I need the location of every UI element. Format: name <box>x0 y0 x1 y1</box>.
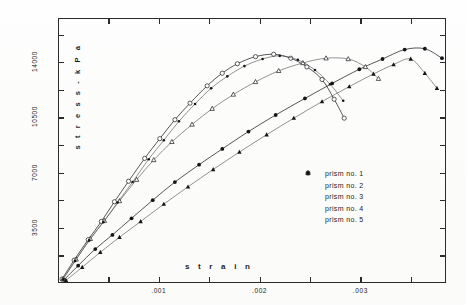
data-point-marker <box>423 47 427 51</box>
data-point-marker <box>381 57 385 61</box>
data-point-marker <box>264 132 268 136</box>
data-point-marker <box>112 200 116 204</box>
data-point-marker <box>247 130 251 134</box>
data-point-marker <box>178 120 181 123</box>
data-point-marker <box>253 55 257 59</box>
data-point-marker <box>126 179 130 183</box>
data-point-marker <box>173 118 177 122</box>
legend-label: prism no. 1 <box>325 170 363 177</box>
data-point-marker <box>62 278 65 281</box>
series-line <box>62 54 344 279</box>
data-point-marker <box>253 79 257 83</box>
data-point-marker <box>220 71 224 75</box>
data-point-marker <box>162 202 166 206</box>
data-point-marker <box>186 184 190 188</box>
data-point-marker <box>292 116 296 120</box>
data-point-marker <box>98 250 102 254</box>
series-4 <box>64 57 439 282</box>
data-point-marker <box>131 181 134 184</box>
data-point-marker <box>102 221 105 224</box>
legend-label: prism no. 2 <box>325 182 363 189</box>
legend-item: prism no. 2 <box>303 180 363 192</box>
data-point-marker <box>403 48 407 52</box>
data-point-marker <box>320 99 324 103</box>
data-point-marker <box>211 167 215 171</box>
data-point-marker <box>329 83 332 86</box>
data-point-marker <box>88 239 91 242</box>
legend-label: prism no. 4 <box>325 205 363 212</box>
data-point-marker <box>74 260 77 263</box>
data-point-marker <box>158 137 162 141</box>
data-point-marker <box>188 101 192 105</box>
chart-page: .001.002.003 350070001050014000 s t r a … <box>0 0 466 305</box>
data-point-marker <box>307 172 310 175</box>
data-point-marker <box>194 103 197 106</box>
data-point-marker <box>93 247 97 251</box>
data-point-marker <box>143 156 147 160</box>
data-point-marker <box>117 235 121 239</box>
data-point-marker <box>289 56 293 60</box>
data-point-marker <box>138 219 142 223</box>
data-point-marker <box>76 264 80 268</box>
data-point-marker <box>278 55 281 58</box>
data-point-marker <box>231 92 235 96</box>
series-1 <box>60 52 346 281</box>
data-point-marker <box>237 150 241 154</box>
data-point-marker <box>205 84 209 88</box>
data-point-marker <box>332 97 336 101</box>
data-point-marker <box>197 163 201 167</box>
data-point-marker <box>151 198 155 202</box>
data-point-marker <box>130 216 134 220</box>
data-point-marker <box>261 58 264 61</box>
data-point-marker <box>116 201 119 204</box>
data-point-marker <box>303 97 307 101</box>
data-point-marker <box>243 65 246 68</box>
data-point-marker <box>342 116 346 120</box>
data-point-marker <box>347 84 351 88</box>
series-line <box>66 59 437 281</box>
chart-plot-area <box>0 0 466 305</box>
data-point-marker <box>235 62 239 66</box>
data-point-marker <box>173 180 177 184</box>
series-2 <box>62 47 444 282</box>
legend-item: prism no. 3 <box>303 191 363 203</box>
data-point-marker <box>272 52 276 56</box>
data-point-marker <box>111 233 115 237</box>
series-line <box>64 48 442 280</box>
data-point-marker <box>210 87 213 90</box>
data-point-marker <box>357 67 361 71</box>
data-point-marker <box>80 265 84 269</box>
data-point-marker <box>163 139 166 142</box>
legend-item: prism no. 5 <box>303 214 363 226</box>
data-point-marker <box>274 113 278 117</box>
legend-label: prism no. 3 <box>325 193 363 200</box>
chart-legend: prism no. 1prism no. 2prism no. 3prism n… <box>303 168 363 226</box>
data-point-marker <box>220 147 224 151</box>
data-point-marker <box>314 69 317 72</box>
data-point-marker <box>320 77 324 81</box>
data-point-marker <box>210 106 214 110</box>
data-point-marker <box>342 100 345 103</box>
legend-item: prism no. 4 <box>303 203 363 215</box>
legend-label: prism no. 5 <box>325 216 363 223</box>
data-point-marker <box>440 56 444 60</box>
data-point-marker <box>297 59 300 62</box>
data-point-marker <box>363 64 367 68</box>
data-point-marker <box>190 122 194 126</box>
data-point-marker <box>226 75 229 78</box>
data-point-marker <box>147 158 150 161</box>
